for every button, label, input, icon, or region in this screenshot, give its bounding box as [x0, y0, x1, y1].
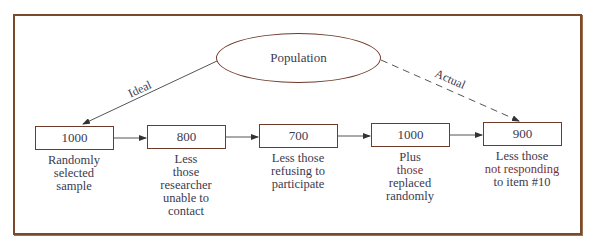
- box-refusing: 700: [259, 124, 338, 148]
- caption-line: randomly: [360, 190, 460, 203]
- box-replaced: 1000: [371, 123, 450, 147]
- box-value: 1000: [398, 127, 424, 143]
- caption-line: sample: [24, 180, 124, 193]
- box-randomly-selected: 1000: [35, 126, 114, 150]
- box-value: 800: [177, 129, 197, 145]
- caption-line: contact: [136, 205, 236, 218]
- population-label: Population: [270, 50, 326, 66]
- actual-arrow: [381, 60, 519, 121]
- box-unable-to-contact: 800: [147, 125, 226, 149]
- caption-line: participate: [248, 178, 348, 191]
- caption-unable-to-contact: Less those researcher unable to contact: [136, 153, 236, 218]
- caption-not-responding: Less those not responding to item #10: [472, 150, 572, 189]
- box-value: 1000: [62, 130, 88, 146]
- caption-randomly-selected: Randomly selected sample: [24, 154, 124, 193]
- caption-line: to item #10: [472, 176, 572, 189]
- caption-replaced: Plus those replaced randomly: [360, 151, 460, 203]
- box-value: 700: [289, 128, 309, 144]
- box-not-responding: 900: [483, 122, 562, 146]
- population-node: Population: [216, 33, 381, 83]
- box-value: 900: [513, 126, 533, 142]
- caption-refusing: Less those refusing to participate: [248, 152, 348, 191]
